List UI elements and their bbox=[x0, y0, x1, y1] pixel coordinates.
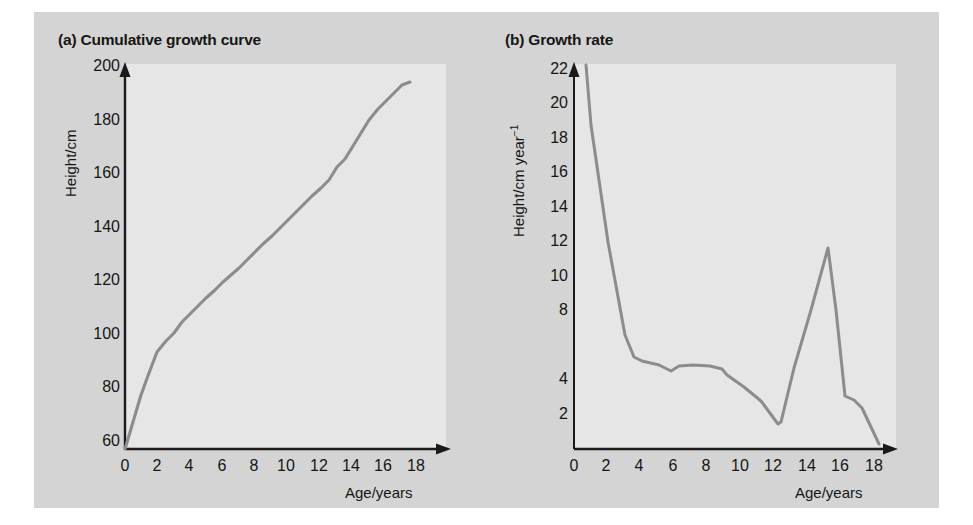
chart-b-x-tick-0: 0 bbox=[559, 457, 589, 475]
chart-a-y-tick-60: 60 bbox=[78, 432, 120, 450]
chart-b-y-tick-4: 4 bbox=[526, 370, 568, 388]
chart-b-x-tick-18: 18 bbox=[859, 457, 889, 475]
chart-a-y-tick-140: 140 bbox=[78, 218, 120, 236]
chart-a-x-tick-6: 6 bbox=[207, 457, 237, 475]
figure-root: (a) Cumulative growth curve Height/cm 20… bbox=[0, 0, 973, 525]
chart-b-y-tick-12: 12 bbox=[526, 232, 568, 250]
chart-b-growth-rate: (b) Growth rate Height/cm year−1 22 20 1… bbox=[486, 12, 938, 508]
chart-a-x-tick-8: 8 bbox=[239, 457, 269, 475]
chart-b-y-tick-10: 10 bbox=[526, 267, 568, 285]
chart-a-y-tick-80: 80 bbox=[78, 378, 120, 396]
chart-b-x-tick-12: 12 bbox=[758, 457, 788, 475]
chart-a-x-tick-16: 16 bbox=[368, 457, 398, 475]
chart-b-y-tick-18: 18 bbox=[526, 129, 568, 147]
chart-b-x-tick-6: 6 bbox=[658, 457, 688, 475]
chart-b-plot bbox=[486, 12, 938, 508]
chart-b-xlabel: Age/years bbox=[795, 484, 863, 501]
chart-b-y-tick-22: 22 bbox=[526, 60, 568, 78]
chart-a-y-tick-160: 160 bbox=[78, 164, 120, 182]
chart-b-y-tick-16: 16 bbox=[526, 163, 568, 181]
chart-b-x-tick-14: 14 bbox=[792, 457, 822, 475]
chart-a-y-tick-100: 100 bbox=[78, 325, 120, 343]
chart-b-y-tick-14: 14 bbox=[526, 198, 568, 216]
chart-b-x-tick-16: 16 bbox=[825, 457, 855, 475]
chart-a-x-tick-12: 12 bbox=[304, 457, 334, 475]
chart-a-y-tick-200: 200 bbox=[78, 57, 120, 75]
chart-b-x-tick-10: 10 bbox=[725, 457, 755, 475]
chart-a-y-tick-120: 120 bbox=[78, 271, 120, 289]
chart-a-cumulative-growth-curve: (a) Cumulative growth curve Height/cm 20… bbox=[34, 12, 486, 508]
chart-a-x-tick-0: 0 bbox=[110, 457, 140, 475]
chart-a-x-tick-14: 14 bbox=[336, 457, 366, 475]
chart-b-x-tick-2: 2 bbox=[591, 457, 621, 475]
chart-a-x-tick-10: 10 bbox=[271, 457, 301, 475]
chart-a-plot-background bbox=[125, 64, 446, 449]
chart-b-y-tick-2: 2 bbox=[526, 405, 568, 423]
chart-a-x-tick-4: 4 bbox=[174, 457, 204, 475]
chart-b-y-tick-8: 8 bbox=[526, 301, 568, 319]
chart-b-x-tick-4: 4 bbox=[624, 457, 654, 475]
figure-panel: (a) Cumulative growth curve Height/cm 20… bbox=[34, 12, 939, 508]
chart-b-y-tick-20: 20 bbox=[526, 94, 568, 112]
chart-a-x-tick-2: 2 bbox=[142, 457, 172, 475]
chart-a-y-tick-180: 180 bbox=[78, 111, 120, 129]
chart-a-xlabel: Age/years bbox=[345, 484, 413, 501]
chart-a-x-tick-18: 18 bbox=[401, 457, 431, 475]
chart-b-x-tick-8: 8 bbox=[691, 457, 721, 475]
chart-b-plot-background bbox=[574, 64, 896, 449]
